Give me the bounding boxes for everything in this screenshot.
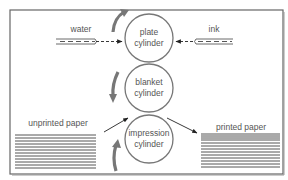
unprinted-paper-label: unprinted paper [20,119,96,128]
ink-feed-pipe-icon [176,39,233,44]
ink-label: ink [204,25,224,34]
plate-cylinder-line1: plate [119,27,179,38]
impression-cylinder-line1: impression [119,128,179,139]
offset-printing-diagram: water ink plate cylinder blanket cylinde… [0,0,288,180]
water-feed-pipe-icon [56,39,122,44]
blanket-cylinder-line1: blanket [119,77,179,88]
blanket-cylinder-label: blanket cylinder [119,77,179,99]
water-label: water [66,25,96,34]
blanket-cylinder-line2: cylinder [119,88,179,99]
plate-cylinder-line2: cylinder [119,38,179,49]
printed-paper-stack [201,134,280,167]
unprinted-paper-stack [15,135,96,168]
plate-cylinder-label: plate cylinder [119,27,179,49]
blanket-rotation-arrow-icon [109,72,118,103]
impression-cylinder-line2: cylinder [119,139,179,150]
impression-cylinder-label: impression cylinder [119,128,179,150]
printed-paper-label: printed paper [207,123,275,132]
